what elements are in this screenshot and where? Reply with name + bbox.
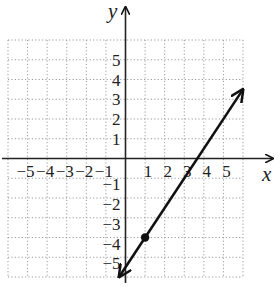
y-tick-label: 1 (112, 130, 121, 149)
data-point (141, 233, 149, 241)
coordinate-plane: −5−4−3−2−11234554321−1−2−3−4−5 x y (0, 0, 280, 286)
x-tick-label: 5 (222, 162, 231, 181)
y-tick-label: −5 (102, 254, 120, 273)
tick-labels: −5−4−3−2−11234554321−1−2−3−4−5 (17, 51, 231, 274)
graph-line (119, 89, 243, 277)
x-tick-label: −3 (56, 162, 74, 181)
y-tick-label: 4 (112, 71, 121, 90)
x-axis-label: x (261, 162, 272, 186)
x-tick-label: 2 (163, 162, 172, 181)
x-tick-label: 4 (203, 162, 212, 181)
y-tick-label: 5 (112, 51, 121, 70)
y-tick-label: 3 (112, 90, 121, 109)
plotted-line (119, 89, 243, 277)
y-tick-label: −1 (102, 175, 120, 194)
y-tick-label: −2 (102, 195, 120, 214)
x-tick-label: −5 (17, 162, 35, 181)
x-tick-label: −2 (75, 162, 93, 181)
axes (2, 8, 272, 283)
y-tick-label: 2 (112, 110, 121, 129)
x-tick-label: −4 (36, 162, 55, 181)
y-axis-label: y (106, 0, 118, 23)
y-tick-label: −4 (102, 235, 121, 254)
x-tick-label: 1 (144, 162, 153, 181)
y-tick-label: −3 (102, 215, 120, 234)
